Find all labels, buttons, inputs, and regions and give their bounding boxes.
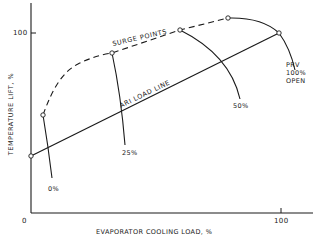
surge-point-marker: [41, 113, 45, 117]
prv-open-point-marker: [277, 31, 281, 35]
curve-50-label: 50%: [233, 103, 249, 110]
curve-25-label: 25%: [122, 150, 138, 157]
y-tick-label-100: 100: [13, 30, 28, 37]
prv-label: PRV 100% OPEN: [286, 61, 306, 85]
x-axis-label: EVAPORATOR COOLING LOAD, %: [96, 229, 212, 236]
curve-prv-100-open: [228, 18, 295, 70]
surge-points-label: SURGE POINTS: [112, 28, 168, 48]
surge-point-marker: [226, 16, 230, 20]
prv-label-line1: PRV: [286, 61, 306, 69]
curve-0-label: 0%: [48, 186, 59, 193]
x-tick-label-100: 100: [274, 218, 289, 225]
ari-load-line: [31, 33, 279, 156]
origin-label: 0: [22, 218, 27, 225]
curve-50-percent: [180, 30, 240, 99]
prv-label-line2: 100%: [286, 69, 306, 77]
y-axis-label: TEMPERATURE LIFT, %: [7, 59, 15, 169]
ari-load-line-label: ARI LOAD LINE: [118, 78, 171, 109]
curve-25-percent: [112, 53, 125, 145]
surge-point-marker: [110, 51, 114, 55]
ari-origin-point-marker: [29, 154, 33, 158]
chart-canvas: SURGE POINTS ARI LOAD LINE: [0, 0, 316, 239]
prv-label-line3: OPEN: [286, 77, 306, 85]
surge-point-marker: [178, 28, 182, 32]
